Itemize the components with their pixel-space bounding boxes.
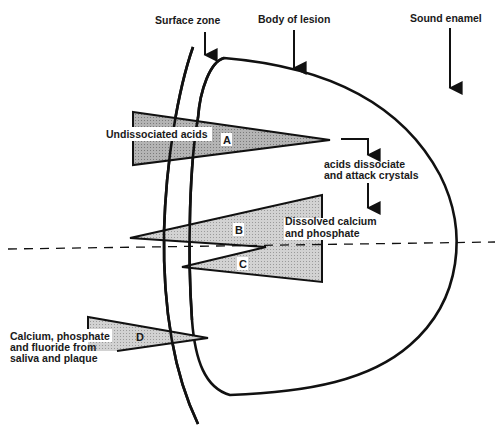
caries-lesion-diagram: Surface zone Body of lesion Sound enamel… [0, 0, 501, 441]
label-source-line3: saliva and plaque [10, 352, 98, 364]
label-sound-enamel: Sound enamel [410, 12, 482, 24]
wedge-label-c: C [239, 258, 247, 270]
diagram-svg: Surface zone Body of lesion Sound enamel… [0, 0, 501, 441]
label-dissolved-line1: Dissolved calcium [285, 215, 377, 227]
wedge-label-b: B [235, 224, 243, 236]
label-surface-zone: Surface zone [155, 14, 221, 26]
wedge-label-d: D [136, 331, 144, 343]
label-acids-dissociate-line2: and attack crystals [324, 169, 419, 181]
acids-dissociate-arrow [341, 139, 368, 155]
label-body-of-lesion: Body of lesion [258, 13, 330, 25]
label-dissolved-line2: and phosphate [285, 227, 360, 239]
label-undissociated-acids: Undissociated acids [106, 128, 208, 140]
wedge-label-a: A [223, 134, 231, 146]
